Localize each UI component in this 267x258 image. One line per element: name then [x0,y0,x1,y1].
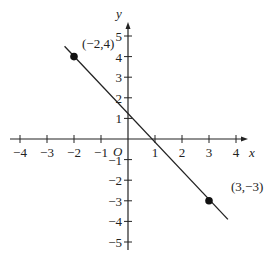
x-tick-label: −3 [40,145,54,160]
point-label: (−2,4) [82,36,114,51]
x-tick-label: 3 [206,145,213,160]
x-axis-arrow-icon [241,137,248,142]
x-tick-label: −1 [94,145,108,160]
y-tick-label: −5 [108,235,122,250]
y-tick-label: 3 [116,70,123,85]
x-tick-label: 1 [152,145,159,160]
y-tick-label: −3 [108,194,122,209]
y-tick-label: 4 [116,50,123,65]
x-tick-label: 2 [179,145,186,160]
data-point [70,53,78,61]
x-tick-label: −4 [13,145,27,160]
x-axis-label: x [248,145,255,160]
y-tick-label: −2 [108,173,122,188]
y-tick-label: 1 [116,111,123,126]
data-line [65,46,228,219]
origin-label: O [113,144,123,159]
y-axis-arrow-icon [126,22,131,29]
y-tick-label: 5 [116,29,123,44]
series-line [65,46,228,219]
x-tick-label: −2 [67,145,81,160]
data-point [205,197,213,205]
point-label: (3,−3) [231,179,263,194]
coordinate-plane: −4−3−2−11234 54321−1−2−3−4−5 x y O (−2,4… [0,0,267,258]
y-tick-label: −4 [108,214,122,229]
data-points: (−2,4)(3,−3) [70,36,263,205]
x-tick-label: 4 [233,145,240,160]
y-axis-label: y [114,6,122,21]
